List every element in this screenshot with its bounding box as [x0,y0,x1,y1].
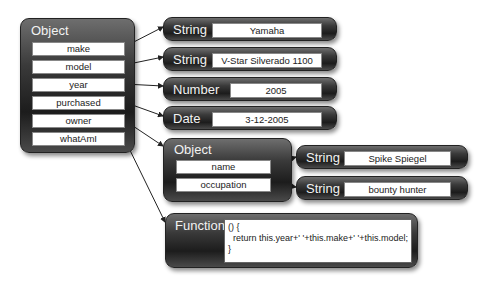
value-text: Yamaha [212,23,322,38]
value-box-purchased: Date 3-12-2005 [163,106,337,130]
root-object-type: Object [31,23,69,38]
value-box-occupation: String bounty hunter [296,176,468,200]
value-box-name: String Spike Spiegel [296,145,468,169]
root-object-box: Object make model year purchased owner w… [20,18,135,153]
value-text: Spike Spiegel [344,151,451,166]
function-box: Function () { return this.year+' '+this.… [165,213,418,268]
field-name: name [176,160,271,174]
owner-object-type: Object [174,142,212,157]
field-model: model [32,60,125,74]
value-type: String [306,181,340,196]
value-box-year: Number 2005 [163,77,337,101]
value-box-model: String V-Star Silverado 1100 [163,47,337,71]
field-year: year [32,78,125,92]
value-type: Date [173,111,200,126]
value-type: String [173,22,207,37]
field-make: make [32,42,125,56]
value-text: bounty hunter [344,182,451,197]
field-purchased: purchased [32,96,125,110]
value-text: 3-12-2005 [212,112,322,127]
field-occupation: occupation [176,178,271,192]
value-type: String [173,52,207,67]
value-text: V-Star Silverado 1100 [212,53,322,68]
function-type: Function [175,218,225,233]
function-code: () { return this.year+' '+this.make+' '+… [224,219,412,263]
value-type: Number [173,82,219,97]
field-whatami: whatAmI [32,132,125,146]
value-type: String [306,150,340,165]
value-text: 2005 [230,83,322,98]
field-owner: owner [32,114,125,128]
owner-object-box: Object name occupation [163,138,292,202]
value-box-make: String Yamaha [163,17,337,41]
